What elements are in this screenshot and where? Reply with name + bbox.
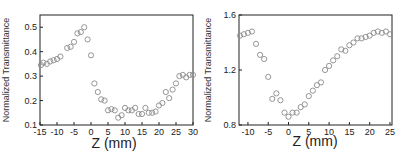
y-tick-label: 0.1 [24,120,37,130]
data-point-marker [139,111,144,116]
data-point-marker [266,74,271,79]
x-tick-label: -10 [50,127,63,137]
data-point-marker [331,58,336,63]
y-tick-label: 0.4 [24,47,37,57]
data-point-marker [143,105,148,110]
data-point-marker [322,67,327,72]
x-tick-label: -5 [264,127,272,137]
x-axis-title-left: Z (mm) [91,135,136,151]
y-tick-label: 1.2 [223,65,236,75]
data-point-marker [351,40,356,45]
data-point-marker [167,96,172,101]
data-point-marker [71,39,76,44]
data-point-marker [302,102,307,107]
z-scan-charts: -15-10-50510152025300.10.20.30.40.5 Norm… [0,0,410,158]
data-point-marker [286,114,291,119]
data-point-marker [78,30,83,35]
x-tick-label: 30 [188,127,198,137]
data-point-marker [105,108,110,113]
x-tick-label: -10 [241,127,254,137]
data-point-marker [163,89,168,94]
data-point-marker [318,80,323,85]
y-tick-label: 0.5 [24,22,37,32]
y-tick-label: 0.8 [223,120,236,130]
x-tick-label: 15 [344,127,354,137]
y-tick-label: 1.6 [223,10,236,20]
x-tick-label: 20 [365,127,375,137]
data-point-marker [109,107,114,112]
x-tick-label: 25 [385,127,395,137]
data-point-marker [102,98,107,103]
data-point-marker [262,56,267,61]
data-point-marker [274,91,279,96]
data-point-marker [177,74,182,79]
data-point-marker [88,53,93,58]
data-point-marker [173,81,178,86]
plot-frame-right [239,15,392,125]
x-tick-label: 25 [171,127,181,137]
axis-ticks-left: -15-10-50510152025300.10.20.30.40.5 [24,22,198,137]
data-point-marker [51,58,56,63]
x-axis-title-right: Z (mm) [292,133,337,149]
data-point-marker [170,87,175,92]
data-point-marker [65,45,70,50]
data-point-marker [253,41,258,46]
chart-left-closed-aperture: -15-10-50510152025300.10.20.30.40.5 Norm… [1,15,198,151]
data-point-marker [258,52,263,57]
data-point-marker [92,81,97,86]
data-point-marker [335,54,340,59]
y-tick-label: 0.3 [24,71,37,81]
data-point-marker [150,110,155,115]
data-points-left [38,25,195,121]
y-axis-title-left: Normalized Transmittance [1,18,11,123]
data-point-marker [282,110,287,115]
data-point-marker [326,63,331,68]
data-point-marker [85,37,90,42]
data-point-marker [82,25,87,30]
data-points-right [237,29,392,119]
data-point-marker [270,96,275,101]
data-point-marker [153,109,158,114]
x-tick-label: 20 [154,127,164,137]
x-tick-label: 0 [286,127,291,137]
data-point-marker [68,44,73,49]
data-point-marker [75,31,80,36]
data-point-marker [278,98,283,103]
data-point-marker [306,94,311,99]
data-point-marker [99,97,104,102]
axis-ticks-right: -10-505101520250.81.21.6 [223,10,394,137]
y-axis-title-right: Normalized Transmittance [203,18,213,123]
x-tick-label: -5 [70,127,78,137]
x-tick-label: 15 [137,127,147,137]
chart-right-open-aperture: -10-505101520250.81.21.6 Normalized Tran… [203,10,395,149]
data-point-marker [112,108,117,113]
data-point-marker [310,88,315,93]
data-point-marker [95,89,100,94]
y-tick-label: 0.2 [24,96,37,106]
